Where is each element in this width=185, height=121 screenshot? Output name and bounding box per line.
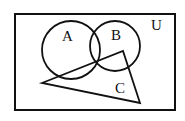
universe-label: U [151,17,162,33]
venn-diagram: A B C U [0,0,185,121]
set-c-label: C [115,80,125,96]
set-b-label: B [111,27,121,43]
venn-svg: A B C U [0,0,185,121]
set-a-label: A [62,28,73,44]
set-c-triangle [42,51,140,103]
